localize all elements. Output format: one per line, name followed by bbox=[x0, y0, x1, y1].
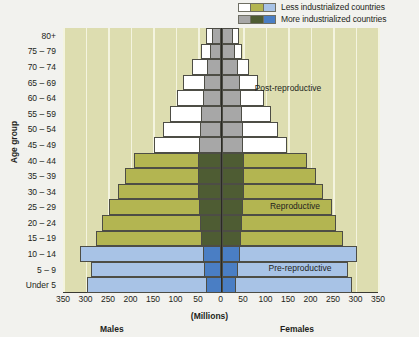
y-axis-tick-label: 35 – 39 bbox=[28, 171, 56, 181]
legend-swatch-gray bbox=[239, 16, 250, 23]
x-axis-tick-label: 200 bbox=[303, 294, 317, 304]
bar-more-industrialized-males bbox=[200, 122, 222, 138]
legend-item-less-industrialized: Less industrialized countries bbox=[238, 2, 418, 12]
legend-swatch-more-industrialized bbox=[238, 15, 276, 24]
bar-more-industrialized-females bbox=[222, 262, 238, 278]
bar-more-industrialized-females bbox=[222, 122, 243, 138]
legend-swatch-white bbox=[239, 4, 250, 11]
x-axis-tick-label: 200 bbox=[123, 294, 137, 304]
population-pyramid-plot bbox=[63, 28, 378, 293]
bar-more-industrialized-males bbox=[199, 199, 222, 215]
zero-axis-line bbox=[221, 28, 222, 292]
bar-more-industrialized-males bbox=[204, 262, 221, 278]
x-axis-tick-label: 300 bbox=[348, 294, 362, 304]
bar-more-industrialized-females bbox=[222, 215, 243, 231]
legend: Less industrialized countries More indus… bbox=[238, 2, 418, 26]
x-axis-tick-label: 150 bbox=[146, 294, 160, 304]
x-axis-tick-label: 350 bbox=[371, 294, 385, 304]
males-label: Males bbox=[100, 324, 124, 334]
legend-swatch-blue bbox=[263, 16, 275, 23]
bar-less-industrialized-females bbox=[222, 246, 357, 262]
bar-more-industrialized-females bbox=[222, 44, 236, 60]
legend-swatch-darkolive bbox=[250, 16, 262, 23]
bar-more-industrialized-males bbox=[204, 75, 221, 91]
y-axis-tick-label: 50 – 54 bbox=[28, 124, 56, 134]
legend-item-more-industrialized: More industrialized countries bbox=[238, 14, 418, 24]
x-axis-tick-label: 50 bbox=[238, 294, 247, 304]
legend-swatch-less-industrialized bbox=[238, 3, 276, 12]
x-axis-tick-label: 100 bbox=[258, 294, 272, 304]
y-axis-tick-label: 45 – 49 bbox=[28, 140, 56, 150]
bar-more-industrialized-males bbox=[210, 44, 222, 60]
y-axis-tick-label: 55 – 59 bbox=[28, 109, 56, 119]
y-axis-tick-label: 30 – 34 bbox=[28, 187, 56, 197]
x-axis-tick-label: 300 bbox=[78, 294, 92, 304]
bar-more-industrialized-females bbox=[222, 184, 245, 200]
y-axis-tick-label: 10 – 14 bbox=[28, 249, 56, 259]
bar-more-industrialized-males bbox=[206, 277, 222, 293]
bar-more-industrialized-males bbox=[200, 215, 222, 231]
bar-less-industrialized-males bbox=[80, 246, 222, 262]
chart-annotation: Pre-reproductive bbox=[269, 263, 332, 273]
bar-more-industrialized-females bbox=[222, 137, 244, 153]
y-axis-tick-label: 60 – 64 bbox=[28, 93, 56, 103]
bar-more-industrialized-males bbox=[203, 90, 222, 106]
x-axis-tick-label: 350 bbox=[56, 294, 70, 304]
bar-more-industrialized-females bbox=[222, 28, 234, 44]
bar-more-industrialized-males bbox=[203, 246, 222, 262]
bar-more-industrialized-males bbox=[198, 168, 221, 184]
y-axis-tick-label: 5 – 9 bbox=[37, 265, 56, 275]
x-axis-tick-label: 250 bbox=[326, 294, 340, 304]
x-axis-tick-label: 100 bbox=[168, 294, 182, 304]
x-axis-tick-label: 0 bbox=[218, 294, 223, 304]
y-axis-tick-label: 40 – 44 bbox=[28, 156, 56, 166]
bar-less-industrialized-females bbox=[222, 277, 353, 293]
chart-annotation: Post-reproductive bbox=[255, 83, 322, 93]
y-axis-tick-label: 25 – 29 bbox=[28, 202, 56, 212]
y-axis-tick-label: 65 – 69 bbox=[28, 78, 56, 88]
bar-more-industrialized-males bbox=[199, 137, 222, 153]
y-axis-tick-label: 80+ bbox=[42, 31, 56, 41]
x-axis-tick-label: 150 bbox=[281, 294, 295, 304]
bar-less-industrialized-males bbox=[91, 262, 222, 278]
chart-annotation: Reproductive bbox=[270, 201, 320, 211]
bar-more-industrialized-males bbox=[198, 153, 221, 169]
females-label: Females bbox=[280, 324, 314, 334]
y-axis-tick-label: 75 – 79 bbox=[28, 46, 56, 56]
bar-more-industrialized-males bbox=[201, 231, 221, 247]
x-axis-tick-label: 250 bbox=[101, 294, 115, 304]
y-axis-tick-label: 15 – 19 bbox=[28, 233, 56, 243]
x-axis-tick-label: 50 bbox=[193, 294, 202, 304]
bar-more-industrialized-females bbox=[222, 168, 245, 184]
legend-swatch-olive bbox=[250, 4, 262, 11]
x-axis-tick-labels: 3503002502001501005005010015020025030035… bbox=[0, 294, 419, 308]
y-axis-tick-label: 20 – 24 bbox=[28, 218, 56, 228]
bar-less-industrialized-males bbox=[87, 277, 222, 293]
y-axis-tick-label: Under 5 bbox=[26, 280, 56, 290]
bar-more-industrialized-females bbox=[222, 153, 245, 169]
bar-more-industrialized-males bbox=[207, 59, 222, 75]
legend-label-more-industrialized: More industrialized countries bbox=[281, 14, 386, 24]
y-axis-tick-labels: Under 55 – 910 – 1415 – 1920 – 2425 – 29… bbox=[0, 28, 60, 293]
bar-more-industrialized-females bbox=[222, 277, 237, 293]
x-axis-unit-label: (Millions) bbox=[0, 311, 419, 321]
bar-more-industrialized-females bbox=[222, 90, 241, 106]
legend-label-less-industrialized: Less industrialized countries bbox=[281, 2, 385, 12]
bar-more-industrialized-males bbox=[198, 184, 221, 200]
bar-more-industrialized-females bbox=[222, 231, 241, 247]
bar-more-industrialized-males bbox=[201, 106, 221, 122]
bar-more-industrialized-females bbox=[222, 199, 244, 215]
bar-more-industrialized-females bbox=[222, 59, 238, 75]
bar-more-industrialized-females bbox=[222, 246, 240, 262]
bar-more-industrialized-females bbox=[222, 75, 240, 91]
bar-more-industrialized-females bbox=[222, 106, 242, 122]
legend-swatch-lightblue bbox=[263, 4, 275, 11]
y-axis-tick-label: 70 – 74 bbox=[28, 62, 56, 72]
gridline bbox=[378, 28, 379, 292]
